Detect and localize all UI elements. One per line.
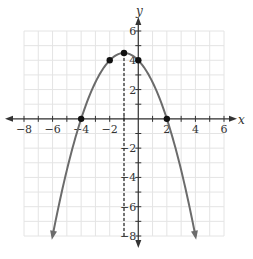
data-point [78,116,84,122]
x-axis-right-arrow-icon [229,116,237,122]
y-tick-label: −8 [120,230,136,243]
curve-left-arrow-icon [50,230,57,240]
x-tick-label: 4 [192,123,199,136]
y-tick-label: −2 [120,142,136,155]
y-axis-up-arrow-icon [135,17,141,25]
data-point [164,116,170,122]
y-tick-label: 2 [129,84,136,97]
data-point [121,50,127,56]
curve-right-arrow-icon [191,230,198,240]
y-tick-label: −6 [120,201,136,214]
y-axis-label: y [135,4,143,18]
x-tick-label: −6 [44,123,60,136]
y-tick-label: 6 [129,25,136,38]
y-tick-label: −4 [120,171,136,184]
x-axis-left-arrow-icon [5,116,13,122]
data-point [107,57,113,63]
data-point [135,57,141,63]
x-axis-label: x [238,113,245,127]
x-tick-label: 6 [221,123,228,136]
x-tick-label: −8 [16,123,32,136]
x-tick-label: −2 [102,123,118,136]
parabola-chart: −8−6−4−2246−8−6−4−2246 x y [0,0,253,259]
